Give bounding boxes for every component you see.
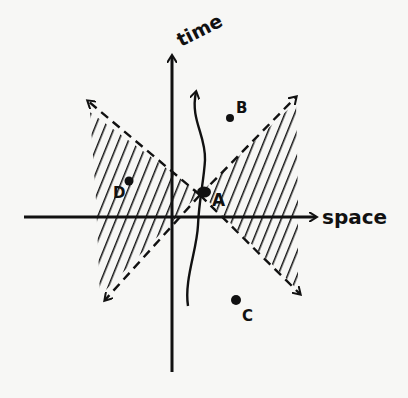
event-b: B	[226, 99, 247, 122]
spacetime-diagram: A B C D time space	[0, 0, 408, 398]
event-c: C	[231, 295, 253, 325]
svg-text:B: B	[236, 99, 247, 117]
svg-text:D: D	[113, 184, 125, 202]
hatched-region-left	[90, 112, 200, 296]
space-axis-label: space	[322, 205, 387, 229]
time-axis-label: time	[173, 9, 226, 51]
svg-text:C: C	[242, 307, 253, 325]
svg-text:A: A	[212, 190, 226, 210]
